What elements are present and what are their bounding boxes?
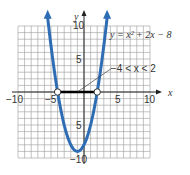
y-tick-neg5: 5 — [76, 120, 82, 131]
annotation-leader-line — [77, 68, 112, 92]
x-axis-label: x — [167, 87, 173, 98]
x-tick-5: 5 — [115, 94, 121, 105]
x-tick-10: 10 — [144, 94, 156, 105]
x-tick-neg5: −5 — [45, 94, 57, 105]
equation-label: y = x² + 2x − 8 — [109, 29, 172, 40]
interval-label: −4 < x < 2 — [111, 63, 156, 74]
y-tick-neg10: −10 — [70, 154, 87, 165]
open-point-right — [94, 89, 100, 95]
y-tick-5: 5 — [76, 54, 82, 65]
y-tick-10: 10 — [73, 20, 85, 31]
x-tick-neg10: −10 — [6, 94, 23, 105]
parabola-graph: y x −10 −5 5 10 10 5 5 −10 y = x² + 2x −… — [0, 0, 190, 175]
